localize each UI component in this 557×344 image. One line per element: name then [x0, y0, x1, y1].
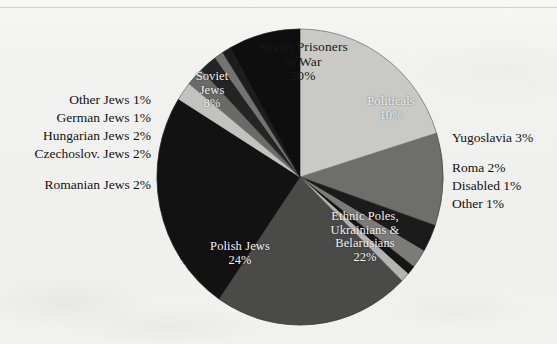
- slice-label-politicals: Politicals 10%: [349, 95, 433, 122]
- external-label-roma: Roma 2%: [452, 161, 506, 175]
- slice-value: 22%: [307, 251, 423, 265]
- slice-value: 20%: [238, 69, 368, 84]
- external-label-czechoslov-jews: Czechoslov. Jews 2%: [35, 147, 151, 161]
- slice-label-line2: Ukrainians &: [307, 224, 423, 238]
- slice-label-line1: Ethnic Poles,: [307, 210, 423, 224]
- slice-label-line1: Polish Jews: [190, 240, 290, 254]
- slice-label-soviet-prisoners-of-war: Soviet Prisoners of War 20%: [238, 40, 368, 84]
- external-label-yugoslavia: Yugoslavia 3%: [452, 131, 533, 145]
- slice-label-ethnic-poles-ukrainians-belarusians: Ethnic Poles, Ukrainians & Belarusians 2…: [307, 210, 423, 264]
- external-label-other-jews: Other Jews 1%: [69, 93, 151, 107]
- slice-label-line2: Jews: [185, 84, 239, 98]
- slice-label-line1: Soviet Prisoners: [238, 40, 368, 55]
- external-label-disabled: Disabled 1%: [452, 179, 521, 193]
- slice-label-soviet-jews: Soviet Jews 8%: [185, 70, 239, 111]
- slice-label-line1: Soviet: [185, 70, 239, 84]
- slice-value: 24%: [190, 254, 290, 268]
- slice-label-polish-jews: Polish Jews 24%: [190, 240, 290, 267]
- slice-value: 10%: [349, 109, 433, 123]
- slice-value: 8%: [185, 97, 239, 111]
- pie-chart: Soviet Prisoners of War 20% Politicals 1…: [0, 0, 557, 344]
- slice-label-line1: Politicals: [349, 95, 433, 109]
- slice-label-line3: Belarusians: [307, 237, 423, 251]
- external-label-romanian-jews: Romanian Jews 2%: [45, 178, 151, 192]
- slice-label-line2: of War: [238, 55, 368, 70]
- external-label-hungarian-jews: Hungarian Jews 2%: [43, 129, 151, 143]
- external-label-german-jews: German Jews 1%: [57, 111, 151, 125]
- external-label-other: Other 1%: [452, 197, 504, 211]
